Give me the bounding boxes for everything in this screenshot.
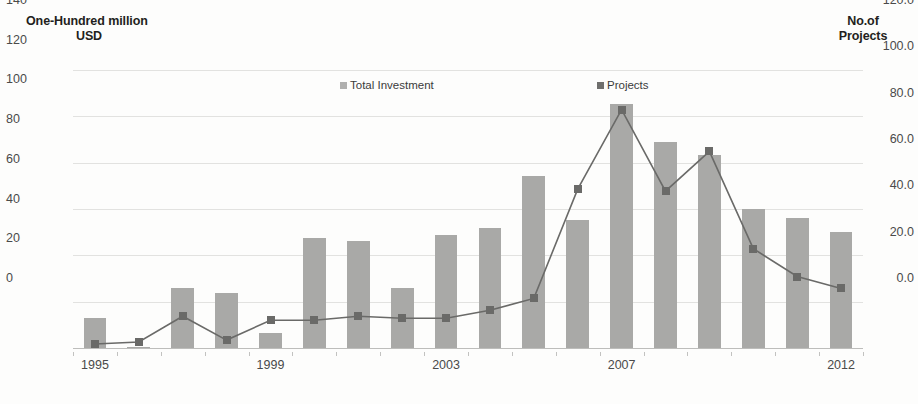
y-axis-right-tick-label: 80 bbox=[6, 112, 20, 126]
bar bbox=[786, 218, 809, 348]
y-axis-left-tick-label: 120.0 bbox=[883, 0, 914, 7]
bar bbox=[127, 347, 150, 348]
y-axis-left-tick-label: 80.0 bbox=[890, 86, 914, 100]
x-axis-tickmark bbox=[249, 352, 250, 356]
x-axis-tickmark bbox=[731, 352, 732, 356]
bar bbox=[84, 318, 107, 348]
y-axis-right-tick-label: 120 bbox=[6, 33, 27, 47]
bar bbox=[259, 333, 282, 348]
x-axis-tick-label: 2012 bbox=[827, 358, 855, 372]
legend-item-total-investment[interactable]: Total Investment bbox=[340, 79, 434, 91]
bar bbox=[830, 232, 853, 348]
bar-swatch-icon bbox=[340, 82, 347, 89]
y-axis-right-tick-label: 40 bbox=[6, 192, 20, 206]
x-axis-tickmark bbox=[161, 352, 162, 356]
x-axis-tickmark bbox=[819, 352, 820, 356]
x-axis-tickmark bbox=[775, 352, 776, 356]
y-axis-right-tick-label: 20 bbox=[6, 231, 20, 245]
x-axis-tickmark bbox=[556, 352, 557, 356]
y-axis-right-tick-label: 60 bbox=[6, 152, 20, 166]
gridline bbox=[73, 70, 863, 71]
y-axis-left-tick-label: 40.0 bbox=[890, 178, 914, 192]
legend-label-total-investment: Total Investment bbox=[350, 79, 434, 91]
y-axis-left-tick-label: 0.0 bbox=[897, 271, 914, 285]
bar bbox=[742, 209, 765, 348]
legend-label-projects: Projects bbox=[607, 79, 649, 91]
right-axis-title-line1: No.of bbox=[847, 14, 878, 28]
y-axis-left-tick-label: 20.0 bbox=[890, 225, 914, 239]
x-axis-tick-label: 1995 bbox=[81, 358, 109, 372]
gridline bbox=[73, 163, 863, 164]
legend-item-projects[interactable]: Projects bbox=[597, 79, 649, 91]
x-axis-tickmark bbox=[863, 352, 864, 356]
x-axis-tick-label: 1999 bbox=[257, 358, 285, 372]
right-axis-title-line2: Projects bbox=[839, 29, 888, 43]
bar bbox=[215, 293, 238, 348]
x-axis-tick-label: 2007 bbox=[608, 358, 636, 372]
line-marker-icon bbox=[597, 82, 604, 89]
x-axis-tick-label: 2003 bbox=[432, 358, 460, 372]
x-axis-tickmark bbox=[644, 352, 645, 356]
x-axis-labels: 19951999200320072012 bbox=[73, 352, 863, 378]
y-axis-right-tick-label: 100 bbox=[6, 72, 27, 86]
bar bbox=[479, 228, 502, 348]
y-axis-left-tick-label: 100.0 bbox=[883, 39, 914, 53]
bar bbox=[698, 155, 721, 348]
x-axis-tickmark bbox=[600, 352, 601, 356]
x-axis-tickmark bbox=[117, 352, 118, 356]
x-axis-tickmark bbox=[380, 352, 381, 356]
y-axis-right-tick-label: 0 bbox=[6, 271, 13, 285]
bar bbox=[303, 238, 326, 348]
x-axis-tickmark bbox=[424, 352, 425, 356]
bar bbox=[171, 288, 194, 348]
y-axis-left-tick-label: 60.0 bbox=[890, 132, 914, 146]
bar bbox=[522, 176, 545, 348]
x-axis-tickmark bbox=[73, 352, 74, 356]
left-axis-title-line1: One-Hundred million bbox=[26, 14, 148, 28]
y-axis-right-tick-label: 140 bbox=[6, 0, 27, 7]
left-axis-title: One-Hundred million USD bbox=[26, 14, 186, 44]
bar bbox=[435, 235, 458, 348]
bar bbox=[391, 288, 414, 348]
chart-container: One-Hundred million USD No.of Projects 0… bbox=[0, 0, 918, 404]
x-axis-tickmark bbox=[468, 352, 469, 356]
bar bbox=[566, 220, 589, 348]
x-axis-tickmark bbox=[512, 352, 513, 356]
bar bbox=[654, 142, 677, 348]
gridline bbox=[73, 116, 863, 117]
x-axis-tickmark bbox=[205, 352, 206, 356]
y-axis-right-ticks: 020406080100120140 bbox=[0, 278, 46, 404]
x-axis-tickmark bbox=[336, 352, 337, 356]
bar bbox=[347, 241, 370, 348]
gridline bbox=[73, 348, 863, 349]
x-axis-tickmark bbox=[292, 352, 293, 356]
left-axis-title-line2: USD bbox=[26, 29, 152, 44]
plot-area bbox=[73, 70, 863, 348]
bar bbox=[610, 104, 633, 348]
x-axis-tickmark bbox=[687, 352, 688, 356]
